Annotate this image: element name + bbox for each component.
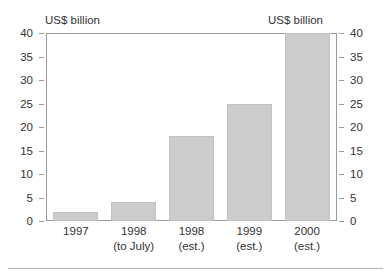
y-tick-label: 35 xyxy=(20,49,33,65)
y-tick-label: 20 xyxy=(20,119,33,135)
y-tick-mark xyxy=(339,80,344,81)
y-tick-label: 30 xyxy=(350,72,363,88)
right-axis-unit-caption: US$ billion xyxy=(268,14,323,26)
chart-figure: US$ billion US$ billion 4035302520151050… xyxy=(0,0,391,279)
bottom-divider-rule xyxy=(8,268,383,269)
y-tick-mark xyxy=(339,221,344,222)
x-axis-label-line1: 2000 xyxy=(294,225,320,237)
y-tick-label: 15 xyxy=(20,143,33,159)
x-axis-label-line1: 1998 xyxy=(121,225,147,237)
y-tick-mark xyxy=(339,33,344,34)
bar-slot xyxy=(278,33,336,221)
bar-slot xyxy=(105,33,163,221)
bar-slot xyxy=(163,33,221,221)
x-axis-label-line2: (est.) xyxy=(163,239,221,254)
x-axis-label-line2: (est.) xyxy=(220,239,278,254)
bar-slot xyxy=(220,33,278,221)
y-tick-mark xyxy=(339,104,344,105)
x-axis-label-line2: (to July) xyxy=(105,239,163,254)
y-tick-label: 30 xyxy=(20,72,33,88)
bar-1997[interactable] xyxy=(53,212,98,221)
y-tick-mark xyxy=(339,151,344,152)
left-axis-unit-caption: US$ billion xyxy=(45,14,100,26)
y-tick-label: 40 xyxy=(20,25,33,41)
x-axis-label-line1: 1998 xyxy=(179,225,205,237)
y-tick-mark xyxy=(39,127,44,128)
y-tick-mark xyxy=(39,174,44,175)
y-tick-label: 10 xyxy=(350,166,363,182)
x-axis-label-line1: 1997 xyxy=(63,225,89,237)
x-axis-label-3: 1999(est.) xyxy=(220,224,278,254)
y-tick-label: 35 xyxy=(350,49,363,65)
y-tick-label: 10 xyxy=(20,166,33,182)
y-tick-label: 40 xyxy=(350,25,363,41)
x-axis-label-line2: (est.) xyxy=(278,239,336,254)
y-tick-mark xyxy=(39,151,44,152)
bar-2000-est-[interactable] xyxy=(285,33,330,221)
x-axis-label-0: 1997 xyxy=(47,224,105,254)
x-axis-label-2: 1998(est.) xyxy=(163,224,221,254)
y-tick-mark xyxy=(39,221,44,222)
y-tick-mark xyxy=(39,80,44,81)
y-tick-label: 0 xyxy=(350,213,356,229)
y-tick-mark xyxy=(39,33,44,34)
y-tick-mark xyxy=(339,57,344,58)
bar-slot xyxy=(47,33,105,221)
x-axis-label-line1: 1999 xyxy=(236,225,262,237)
y-tick-label: 20 xyxy=(350,119,363,135)
y-tick-label: 5 xyxy=(350,190,356,206)
clipped-title-text xyxy=(0,0,391,3)
y-tick-label: 5 xyxy=(27,190,33,206)
y-axis-left: 4035302520151050 xyxy=(0,33,44,221)
y-tick-label: 15 xyxy=(350,143,363,159)
bar-1998-to-july-[interactable] xyxy=(111,202,156,221)
y-tick-label: 25 xyxy=(350,96,363,112)
y-tick-label: 0 xyxy=(27,213,33,229)
x-axis-label-4: 2000(est.) xyxy=(278,224,336,254)
y-axis-right: 4035302520151050 xyxy=(338,33,382,221)
y-tick-mark xyxy=(39,104,44,105)
bar-1998-est-[interactable] xyxy=(169,136,214,221)
y-tick-mark xyxy=(339,127,344,128)
y-tick-mark xyxy=(39,198,44,199)
x-axis-label-1: 1998(to July) xyxy=(105,224,163,254)
bar-series xyxy=(46,33,337,221)
y-tick-mark xyxy=(339,174,344,175)
y-tick-mark xyxy=(39,57,44,58)
x-axis-labels: 19971998(to July)1998(est.)1999(est.)200… xyxy=(46,224,337,254)
bar-1999-est-[interactable] xyxy=(227,104,272,222)
y-tick-label: 25 xyxy=(20,96,33,112)
y-tick-mark xyxy=(339,198,344,199)
